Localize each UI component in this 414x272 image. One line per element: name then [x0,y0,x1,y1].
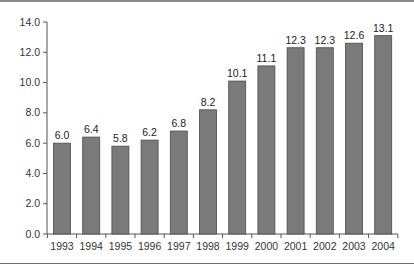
y-tick-label: 6.0 [25,137,40,149]
bar-value-label: 6.0 [55,129,70,141]
x-tick-label: 2002 [313,240,337,252]
bar-value-label: 11.1 [257,52,277,64]
y-tick-label: 10.0 [20,76,41,88]
x-tick-label: 1998 [196,240,220,252]
bar-1999 [229,81,246,234]
bar-2003 [346,43,363,234]
bar-value-label: 5.8 [113,132,128,144]
y-tick-label: 14.0 [20,16,41,28]
bar-chart: 0.02.04.06.08.010.012.014.0 199319941995… [0,0,414,272]
x-tick-label: 1999 [226,240,250,252]
x-tick-label: 1995 [109,240,133,252]
bar-2000 [258,66,275,234]
bar-value-label: 12.3 [285,34,306,46]
x-tick-label: 2004 [372,240,396,252]
x-tick-label: 2000 [255,240,279,252]
bar-value-label: 12.3 [315,34,336,46]
x-tick-label: 1997 [167,240,191,252]
x-tick-label: 2001 [284,240,308,252]
bar-2002 [316,48,333,234]
bar-1995 [112,146,129,234]
y-tick-label: 12.0 [20,46,41,58]
bar-1996 [141,140,158,234]
bar-1997 [170,131,187,234]
y-tick-label: 0.0 [25,228,40,240]
bar-2004 [375,36,392,234]
x-tick-label: 1994 [80,240,104,252]
x-axis: 1993199419951996199719981999200020012002… [47,234,398,252]
bars: 6.06.45.86.26.88.210.111.112.312.312.613… [54,22,394,234]
y-axis: 0.02.04.06.08.010.012.014.0 [20,16,47,240]
bar-1993 [54,143,71,234]
bar-value-label: 12.6 [344,29,365,41]
bar-1994 [83,137,100,234]
bar-value-label: 6.8 [171,117,186,129]
bar-value-label: 6.4 [84,123,99,135]
bar-value-label: 13.1 [373,22,394,34]
bar-1998 [200,110,217,234]
x-tick-label: 1993 [50,240,74,252]
y-tick-label: 2.0 [25,197,40,209]
bar-value-label: 8.2 [201,96,216,108]
y-tick-label: 8.0 [25,106,40,118]
bar-2001 [287,48,304,234]
bar-value-label: 10.1 [227,67,248,79]
y-tick-label: 4.0 [25,167,40,179]
x-tick-label: 2003 [342,240,366,252]
x-tick-label: 1996 [138,240,162,252]
bar-value-label: 6.2 [142,126,157,138]
